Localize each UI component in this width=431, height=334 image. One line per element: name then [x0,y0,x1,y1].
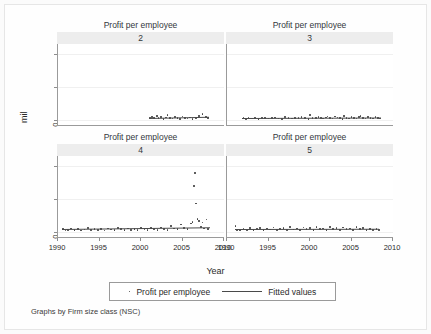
x-tick [268,238,269,241]
data-point [193,185,195,187]
scatter-marker-icon [129,291,131,293]
y-axis-title: mil [19,112,29,124]
panel-band-label-2: 2 [57,32,224,44]
data-point [170,225,172,227]
x-tick [182,238,183,241]
figure-caption: Graphs by Firm size class (NSC) [31,307,140,316]
data-point [114,229,116,231]
x-axis-title: Year [5,266,426,276]
panel-band-label-4: 4 [57,144,224,156]
gridline-y-0 [58,120,224,121]
x-tick [223,238,224,241]
x-tick [140,238,141,241]
gridline-y-0 [227,232,393,233]
legend-label-scatter: Profit per employee [136,287,210,297]
gridline-y-1000 [227,87,393,88]
panel-4: Profit per employee4 [57,131,224,238]
data-point [195,203,197,205]
legend-item-fitted: Fitted values [222,287,316,297]
gridline-y-0 [227,120,393,121]
data-point [289,226,291,228]
x-tick-label: 1990 [49,243,66,252]
data-point [206,219,208,221]
figure-frame: mil 010002000Profit per employee2Profit … [4,4,427,330]
data-point [167,114,169,116]
x-tick-label: 2005 [342,243,359,252]
plot-area-4 [57,156,224,238]
x-tick [309,238,310,241]
data-point [198,220,200,222]
data-point [192,118,194,120]
data-point [194,172,196,174]
panel-title-5: Profit per employee [226,131,393,144]
data-point [192,221,194,223]
data-point [202,222,204,224]
x-tick-label: 1995 [259,243,276,252]
gridline-y-2000 [58,166,224,167]
fitted-line-5 [235,229,379,230]
x-tick [99,238,100,241]
panel-band-label-5: 5 [226,144,393,156]
gridline-y-2000 [58,54,224,55]
x-tick-label: 2000 [301,243,318,252]
data-point [124,229,126,231]
fitted-line-3 [242,118,381,119]
legend: Profit per employee Fitted values [109,282,336,301]
plot-area-2 [57,44,224,126]
data-point [316,226,318,228]
x-tick-label: 2005 [173,243,190,252]
data-point [309,114,311,116]
x-tick [351,238,352,241]
legend-item-scatter: Profit per employee [129,287,211,297]
data-point [343,115,345,117]
x-tick-label: 1990 [218,243,235,252]
panel-3: Profit per employee3 [226,19,393,126]
panel-2: Profit per employee2 [57,19,224,126]
chart-figure: mil 010002000Profit per employee2Profit … [0,0,431,334]
x-tick-label: 1995 [90,243,107,252]
panel-title-4: Profit per employee [57,131,224,144]
data-point [179,118,181,120]
plot-area-3 [226,44,393,126]
gridline-y-1000 [58,199,224,200]
gridline-y-2000 [227,54,393,55]
x-tick [392,238,393,241]
x-tick-label: 2000 [132,243,149,252]
legend-label-fitted: Fitted values [268,287,316,297]
panel-5: Profit per employee5 [226,131,393,238]
panel-title-3: Profit per employee [226,19,393,32]
gridline-y-0 [58,232,224,233]
data-point [202,113,204,115]
data-point [235,225,237,227]
panel-title-2: Profit per employee [57,19,224,32]
x-tick [226,238,227,241]
panel-band-label-3: 3 [226,32,393,44]
x-tick [57,238,58,241]
gridline-y-2000 [227,166,393,167]
x-tick-label: 2010 [384,243,401,252]
data-point [356,226,358,228]
data-point [157,229,159,231]
gridline-y-1000 [58,87,224,88]
fitted-line-icon [222,291,262,292]
data-point [137,229,139,231]
data-point [167,229,169,231]
data-point [147,229,149,231]
gridline-y-1000 [227,199,393,200]
data-point [329,226,331,228]
data-point [104,230,106,232]
plot-area-5 [226,156,393,238]
data-point [180,224,182,226]
